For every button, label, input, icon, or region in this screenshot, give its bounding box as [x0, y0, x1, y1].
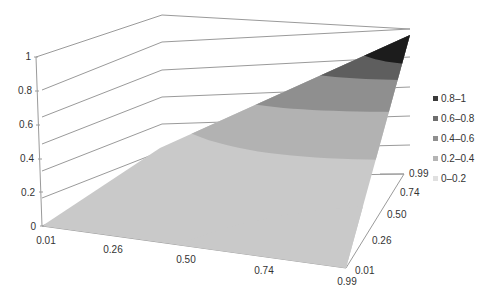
x-tick-label: 0.01 [36, 235, 56, 246]
z-tick-label: 0.2 [21, 187, 35, 198]
legend-item: 0.2–0.4 [433, 148, 474, 168]
legend-label: 0.4–0.6 [441, 133, 474, 144]
z-tick-label: 1 [25, 51, 31, 62]
x-tick-label: 0.50 [176, 254, 196, 265]
z-axis [36, 57, 42, 226]
surface-chart: 1 0.8 0.6 0.4 0.2 0 0.01 0.26 0.50 0.74 … [0, 0, 481, 298]
y-tick-label: 0.01 [355, 265, 375, 276]
legend-item: 0.6–0.8 [433, 108, 474, 128]
legend-swatch [433, 116, 438, 121]
x-tick-label: 0.74 [254, 265, 274, 276]
x-tick-label: 0.26 [103, 244, 123, 255]
z-tick-label: 0.8 [18, 85, 32, 96]
legend-item: 0–0.2 [433, 168, 474, 188]
legend-swatch [433, 156, 438, 161]
legend-label: 0–0.2 [441, 173, 466, 184]
legend-label: 0.6–0.8 [441, 113, 474, 124]
legend-item: 0.4–0.6 [433, 128, 474, 148]
z-tick-label: 0 [30, 221, 36, 232]
top-gridline [36, 15, 410, 57]
y-tick-label: 0.50 [387, 209, 407, 220]
y-tick-label: 0.74 [400, 187, 420, 198]
legend-item: 0.8–1 [433, 88, 474, 108]
legend-swatch [433, 136, 438, 141]
legend-swatch [433, 176, 438, 181]
z-tick-label: 0.6 [19, 119, 33, 130]
legend-label: 0.8–1 [441, 93, 466, 104]
x-tick-label: 0.99 [337, 276, 357, 287]
legend-label: 0.2–0.4 [441, 153, 474, 164]
y-tick-label: 0.99 [409, 168, 429, 179]
legend-swatch [433, 96, 438, 101]
legend: 0.8–1 0.6–0.8 0.4–0.6 0.2–0.4 0–0.2 [433, 88, 474, 188]
z-tick-label: 0.4 [20, 153, 34, 164]
y-tick-label: 0.26 [372, 235, 392, 246]
